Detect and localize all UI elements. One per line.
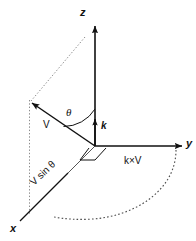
y-axis-label: y (185, 137, 193, 149)
vector-v-label: V (43, 119, 50, 130)
z-axis-label: z (79, 6, 86, 18)
vector-diagram-figure: z y x V k k×V θ V sin θ (0, 0, 196, 241)
k-cross-v-label: k×V (124, 155, 142, 166)
angle-theta-label: θ (66, 106, 72, 118)
vector-v-arrow (32, 103, 95, 146)
dotted-line-z-to-v-tip (31, 37, 85, 101)
v-sin-theta-label: V sin θ (28, 158, 58, 187)
x-axis-label: x (9, 222, 17, 234)
vector-diagram-canvas: z y x V k k×V θ V sin θ (0, 0, 196, 241)
vector-k-label: k (101, 120, 107, 131)
main-axes (95, 26, 182, 146)
dotted-arc-sweep (54, 150, 176, 219)
